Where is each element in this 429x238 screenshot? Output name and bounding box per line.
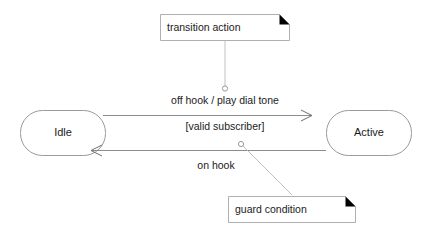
transition-active-to-idle-action-label: on hook bbox=[197, 159, 235, 171]
transition-action-note-label: transition action bbox=[167, 21, 241, 33]
diagram-canvas: transition action Idle Active off hook /… bbox=[0, 0, 429, 238]
guard-condition-note[interactable]: guard condition bbox=[229, 197, 356, 223]
note-fold-corner-icon bbox=[346, 197, 356, 207]
guard-condition-connector bbox=[243, 146, 292, 195]
transition-idle-to-active[interactable]: off hook / play dial tone [valid subscri… bbox=[103, 94, 312, 132]
state-idle[interactable]: Idle bbox=[21, 111, 106, 156]
state-active-label: Active bbox=[354, 126, 384, 138]
note-fold-corner-icon bbox=[280, 15, 290, 25]
uml-state-diagram: transition action Idle Active off hook /… bbox=[0, 0, 429, 238]
state-idle-label: Idle bbox=[54, 126, 72, 138]
guard-condition-note-label: guard condition bbox=[235, 203, 307, 215]
transition-active-to-idle[interactable]: on hook bbox=[91, 145, 326, 171]
transition-action-anchor-point bbox=[222, 86, 227, 91]
transition-action-note[interactable]: transition action bbox=[161, 15, 290, 41]
guard-condition-anchor-point bbox=[238, 141, 243, 146]
state-active[interactable]: Active bbox=[327, 111, 412, 156]
transition-idle-to-active-guard-label: [valid subscriber] bbox=[186, 120, 265, 132]
transition-idle-to-active-action-label: off hook / play dial tone bbox=[171, 94, 279, 106]
